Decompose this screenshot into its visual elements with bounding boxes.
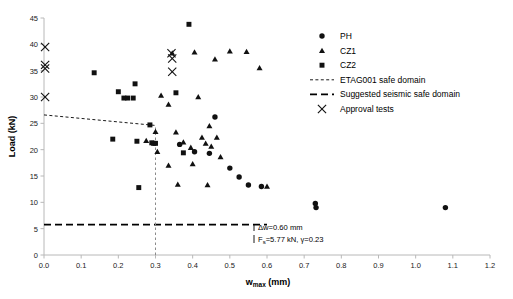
y-axis-tick-label: 45 bbox=[30, 14, 38, 23]
data-point-cz1 bbox=[206, 123, 212, 128]
data-point-cz2 bbox=[110, 137, 115, 142]
x-axis-tick-label: 0.8 bbox=[336, 261, 346, 270]
data-point-cz1 bbox=[212, 56, 218, 61]
data-point-ph bbox=[313, 205, 318, 210]
y-axis-tick-label: 0 bbox=[34, 251, 38, 260]
x-axis-tick-label: 0.9 bbox=[373, 261, 383, 270]
annotation-fs-rest: =5.77 kN, γ=0.23 bbox=[266, 235, 324, 244]
data-point-cz1 bbox=[192, 49, 198, 54]
x-axis-title: wmax (mm) bbox=[245, 277, 291, 288]
legend-label: CZ1 bbox=[340, 46, 356, 56]
y-axis-tick-label: 35 bbox=[30, 67, 38, 76]
data-point-cz1 bbox=[175, 181, 181, 186]
y-axis-tick-label: 10 bbox=[30, 198, 38, 207]
annotation-delta-w: Δw=0.60 mm bbox=[258, 223, 303, 232]
legend-swatch-triangle-icon bbox=[319, 48, 325, 53]
y-axis-tick-label: 20 bbox=[30, 146, 38, 155]
x-axis-tick-label: 0.0 bbox=[39, 261, 49, 270]
data-point-cz1 bbox=[257, 65, 263, 70]
data-point-cz2 bbox=[173, 90, 178, 95]
data-point-cz1 bbox=[244, 49, 250, 54]
data-point-ph bbox=[192, 149, 197, 154]
legend-swatch-square-icon bbox=[320, 63, 325, 68]
x-axis-tick-label: 0.7 bbox=[299, 261, 309, 270]
data-point-cz2 bbox=[131, 96, 136, 101]
data-point-cz1 bbox=[173, 129, 179, 134]
legend-label: PH bbox=[340, 31, 352, 41]
annotations-group: Δw=0.60 mmFs=5.77 kN, γ=0.23 bbox=[254, 223, 323, 245]
data-point-cz2 bbox=[147, 122, 152, 127]
data-point-cz1 bbox=[214, 135, 220, 140]
data-point-cz1 bbox=[218, 154, 224, 159]
data-point-ph bbox=[259, 184, 264, 189]
data-point-ph bbox=[212, 114, 217, 119]
x-axis-tick-label: 1.0 bbox=[410, 261, 420, 270]
data-point-cz2 bbox=[133, 81, 138, 86]
legend-label: CZ2 bbox=[340, 60, 356, 70]
y-axis-tick-label: 30 bbox=[30, 93, 38, 102]
x-axis-tick-label: 1.2 bbox=[485, 261, 495, 270]
data-point-cz2 bbox=[116, 89, 121, 94]
data-point-cz1 bbox=[158, 92, 164, 97]
y-axis-tick-label: 5 bbox=[34, 225, 38, 234]
data-point-cz1 bbox=[208, 144, 214, 149]
y-axis-tick-label: 40 bbox=[30, 40, 38, 49]
data-point-cz2 bbox=[134, 139, 139, 144]
legend-label: ETAG001 safe domain bbox=[340, 75, 426, 85]
x-axis-tick-label: 0.6 bbox=[262, 261, 272, 270]
legend-item[interactable]: ETAG001 safe domain bbox=[310, 75, 426, 85]
data-point-cz1 bbox=[264, 184, 270, 189]
data-point-cz2 bbox=[136, 185, 141, 190]
legend-label: Approval tests bbox=[340, 104, 394, 114]
data-point-cz1 bbox=[199, 135, 205, 140]
legend-swatch-circle-icon bbox=[319, 33, 324, 38]
legend-item[interactable]: CZ1 bbox=[319, 46, 356, 56]
data-point-cz1 bbox=[166, 163, 172, 168]
x-axis-tick-label: 1.1 bbox=[448, 261, 458, 270]
x-axis-tick-label: 0.1 bbox=[76, 261, 86, 270]
y-axis-tick-label: 15 bbox=[30, 172, 38, 181]
x-axis-tick-label: 0.3 bbox=[150, 261, 160, 270]
data-point-cz1 bbox=[166, 101, 172, 106]
data-point-ph bbox=[246, 182, 251, 187]
data-point-cz1 bbox=[205, 182, 211, 187]
x-axis-title-sub: max bbox=[253, 281, 266, 288]
data-point-cz2 bbox=[125, 96, 130, 101]
data-point-ph bbox=[227, 165, 232, 170]
x-axis-tick-label: 0.2 bbox=[113, 261, 123, 270]
data-point-ph bbox=[207, 151, 212, 156]
reference-line bbox=[44, 115, 156, 126]
data-point-cz2 bbox=[92, 70, 97, 75]
data-point-cz1 bbox=[195, 94, 201, 99]
annotation-fs-gamma: Fs=5.77 kN, γ=0.23 bbox=[258, 235, 323, 245]
data-point-cz1 bbox=[153, 129, 159, 134]
chart-svg: 0.00.10.20.30.40.50.60.70.80.91.01.11.20… bbox=[0, 0, 513, 299]
data-point-ph bbox=[236, 174, 241, 179]
legend-label: Suggested seismic safe domain bbox=[340, 89, 460, 99]
legend-item[interactable]: CZ2 bbox=[320, 60, 357, 70]
x-axis-title-unit: (mm) bbox=[266, 277, 291, 287]
data-point-cz1 bbox=[188, 145, 194, 150]
reference-lines-group bbox=[44, 115, 267, 255]
data-point-cz1 bbox=[227, 48, 233, 53]
data-point-cz2 bbox=[153, 141, 158, 146]
data-point-cz2 bbox=[186, 22, 191, 27]
legend-item[interactable]: Suggested seismic safe domain bbox=[310, 89, 460, 99]
data-point-cz1 bbox=[143, 138, 149, 143]
scatter-chart-figure: 0.00.10.20.30.40.50.60.70.80.91.01.11.20… bbox=[0, 0, 513, 299]
data-point-cz1 bbox=[190, 161, 196, 166]
data-point-ph bbox=[443, 205, 448, 210]
axes-group: 0.00.10.20.30.40.50.60.70.80.91.01.11.20… bbox=[7, 14, 495, 288]
x-axis-tick-label: 0.4 bbox=[187, 261, 197, 270]
legend-item[interactable]: Approval tests bbox=[318, 104, 394, 114]
data-point-cz1 bbox=[203, 140, 209, 145]
data-point-cz1 bbox=[180, 139, 186, 144]
x-axis-tick-label: 0.5 bbox=[225, 261, 235, 270]
data-points-group bbox=[41, 22, 448, 210]
y-axis-tick-label: 25 bbox=[30, 119, 38, 128]
legend-group: PHCZ1CZ2ETAG001 safe domainSuggested sei… bbox=[310, 31, 460, 114]
legend-item[interactable]: PH bbox=[319, 31, 352, 41]
y-axis-title: Load (kN) bbox=[7, 116, 17, 158]
data-point-cz2 bbox=[181, 150, 186, 155]
